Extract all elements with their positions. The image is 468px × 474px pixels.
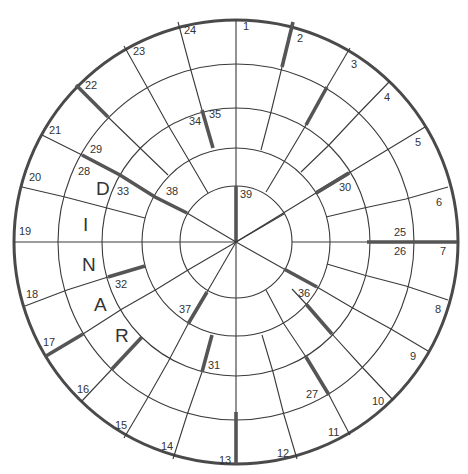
clue-number-32: 32 [115, 278, 127, 290]
clue-number-33: 33 [117, 185, 129, 197]
clue-number-6: 6 [436, 196, 442, 208]
clue-number-27: 27 [306, 388, 318, 400]
clue-number-13: 13 [219, 454, 231, 466]
clue-number-25: 25 [394, 226, 406, 238]
clue-number-9: 9 [410, 350, 416, 362]
clue-number-18: 18 [26, 288, 38, 300]
clue-number-11: 11 [328, 426, 339, 438]
clue-number-10: 10 [372, 395, 384, 407]
clue-number-19: 19 [19, 225, 31, 237]
clue-number-34: 34 [189, 115, 201, 127]
clue-number-7: 7 [440, 245, 446, 257]
clue-number-16: 16 [77, 383, 89, 395]
circular-crossword-grid[interactable]: 1234567891011121314151617181920212223242… [0, 0, 468, 474]
clue-number-2: 2 [297, 32, 303, 44]
clue-number-20: 20 [29, 171, 41, 183]
clue-number-22: 22 [85, 79, 97, 91]
grid-cell-letter[interactable]: I [83, 214, 88, 235]
clue-number-26: 26 [394, 245, 406, 257]
clue-number-1: 1 [243, 20, 249, 32]
clue-number-29: 29 [90, 143, 102, 155]
clue-number-39: 39 [240, 188, 252, 200]
clue-number-35: 35 [209, 108, 221, 120]
clue-number-37: 37 [179, 303, 191, 315]
clue-number-12: 12 [277, 447, 289, 459]
clue-number-8: 8 [435, 303, 441, 315]
clue-number-15: 15 [115, 419, 127, 431]
grid-lines [14, 20, 457, 464]
clue-number-17: 17 [43, 336, 55, 348]
clue-number-5: 5 [415, 136, 421, 148]
clue-number-21: 21 [49, 124, 61, 136]
clue-number-3: 3 [351, 58, 357, 70]
grid-cell-letter[interactable]: D [96, 178, 110, 199]
clue-number-28: 28 [78, 165, 90, 177]
clue-number-4: 4 [384, 91, 390, 103]
clue-number-14: 14 [161, 440, 173, 452]
grid-cell-letter[interactable]: A [94, 294, 107, 315]
clue-number-31: 31 [208, 359, 220, 371]
clue-number-36: 36 [298, 287, 310, 299]
grid-cell-letter[interactable]: N [82, 254, 96, 275]
clue-number-24: 24 [184, 24, 196, 36]
clue-number-38: 38 [166, 185, 178, 197]
clue-number-30: 30 [339, 181, 351, 193]
grid-cell-letter[interactable]: R [115, 325, 129, 346]
clue-number-23: 23 [133, 45, 145, 57]
